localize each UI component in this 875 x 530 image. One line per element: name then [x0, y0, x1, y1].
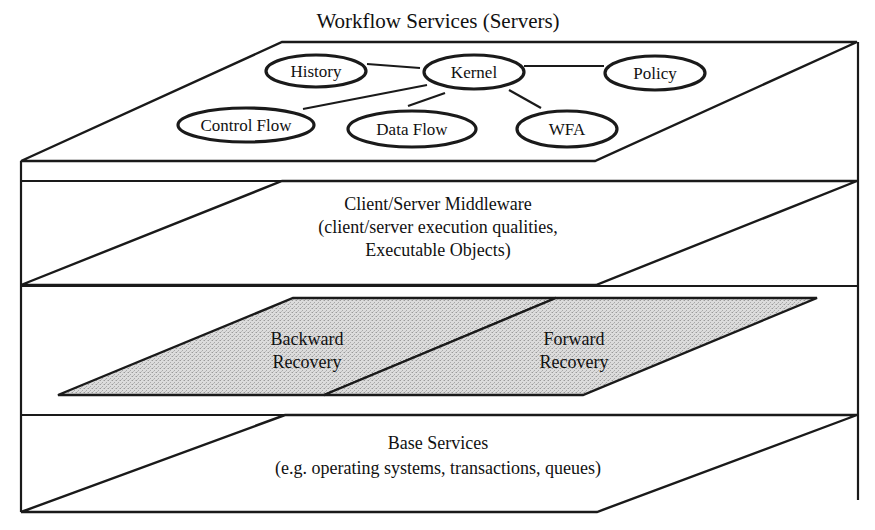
middleware-layer: Client/Server Middleware (client/server …: [21, 181, 858, 285]
base-services-title: Base Services: [388, 433, 488, 453]
workflow-architecture-diagram: Workflow Services (Servers) History Kern…: [0, 0, 875, 530]
base-services-layer: Base Services (e.g. operating systems, t…: [21, 415, 858, 512]
middleware-desc-2: Executable Objects): [365, 240, 510, 261]
svg-text:Control Flow: Control Flow: [200, 116, 292, 135]
recovery-layer: Backward Recovery Forward Recovery: [21, 286, 858, 395]
middleware-title: Client/Server Middleware: [344, 194, 531, 214]
svg-text:Recovery: Recovery: [273, 352, 342, 372]
node-policy: Policy: [605, 56, 705, 90]
diagram-title: Workflow Services (Servers): [316, 9, 559, 33]
node-kernel: Kernel: [424, 55, 524, 89]
svg-text:Policy: Policy: [633, 64, 677, 83]
svg-text:Backward: Backward: [271, 329, 344, 349]
svg-text:WFA: WFA: [549, 120, 586, 139]
svg-text:Data Flow: Data Flow: [376, 120, 448, 139]
node-data-flow: Data Flow: [348, 111, 476, 147]
middleware-desc-1: (client/server execution qualities,: [318, 217, 557, 238]
svg-text:History: History: [291, 62, 343, 81]
svg-text:Kernel: Kernel: [451, 63, 498, 82]
base-services-desc: (e.g. operating systems, transactions, q…: [275, 458, 601, 479]
workflow-services-layer: History Kernel Policy Control Flow Data …: [21, 42, 857, 161]
node-wfa: WFA: [517, 111, 617, 147]
svg-text:Forward: Forward: [544, 329, 605, 349]
svg-text:Recovery: Recovery: [540, 352, 609, 372]
node-control-flow: Control Flow: [178, 108, 314, 142]
node-history: History: [266, 55, 366, 87]
